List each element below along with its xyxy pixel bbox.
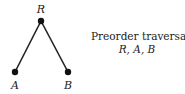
node-label-r: R bbox=[36, 3, 45, 16]
caption-title: Preorder traversal bbox=[91, 30, 185, 42]
node-b bbox=[65, 69, 71, 75]
node-r bbox=[38, 18, 44, 24]
node-label-a: A bbox=[10, 79, 19, 92]
caption-sequence: R, A, B bbox=[91, 43, 183, 55]
node-label-b: B bbox=[63, 79, 72, 92]
edge-r-b bbox=[41, 21, 68, 72]
node-a bbox=[12, 69, 18, 75]
edge-r-a bbox=[15, 21, 41, 72]
